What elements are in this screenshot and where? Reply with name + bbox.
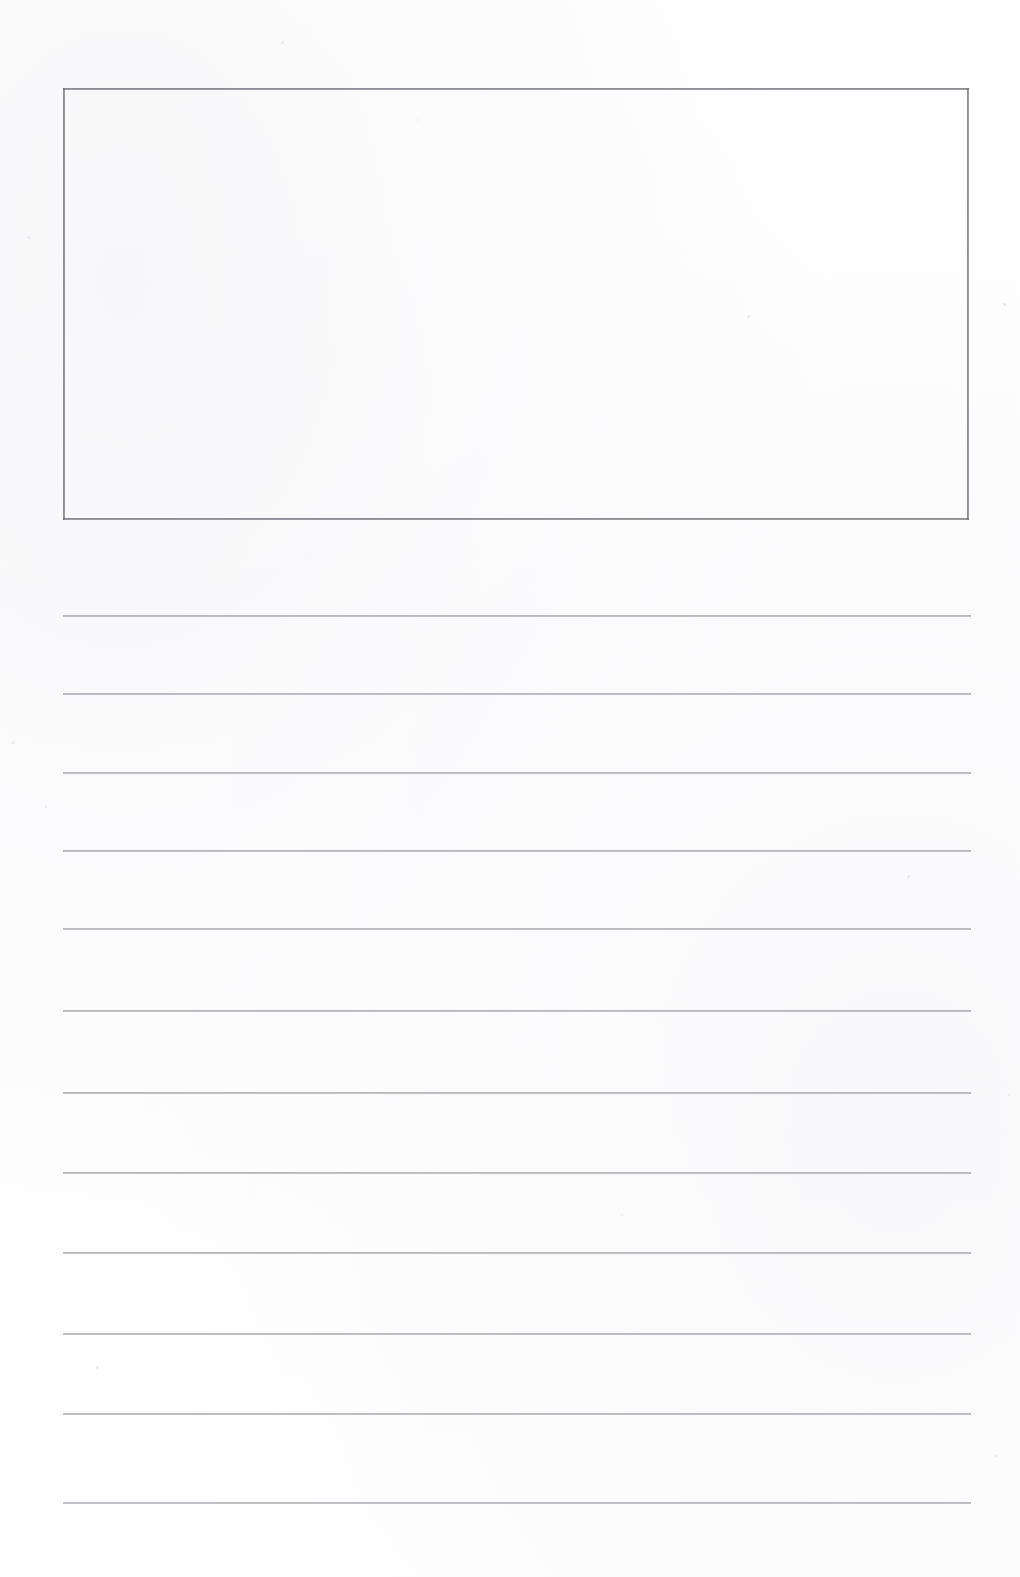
writing-line[interactable] — [63, 850, 971, 852]
writing-line[interactable] — [63, 772, 971, 774]
writing-line[interactable] — [63, 693, 971, 695]
writing-line[interactable] — [63, 1413, 971, 1415]
writing-line[interactable] — [63, 928, 971, 930]
writing-line[interactable] — [63, 1010, 971, 1012]
writing-line[interactable] — [63, 615, 971, 617]
drawing-box-right-border — [967, 88, 969, 520]
drawing-box-top-border — [63, 88, 969, 90]
scan-speck — [1003, 303, 1006, 306]
scan-speck — [621, 1214, 623, 1216]
scan-speck — [907, 875, 910, 878]
scan-speck — [995, 1455, 997, 1457]
scan-speck — [1008, 1094, 1010, 1096]
scan-speck — [96, 1366, 99, 1369]
writing-line[interactable] — [63, 1502, 971, 1504]
writing-line[interactable] — [63, 1092, 971, 1094]
writing-line[interactable] — [63, 1252, 971, 1254]
writing-line[interactable] — [63, 1172, 971, 1174]
scanned-page — [0, 0, 1020, 1577]
scan-speck — [45, 806, 47, 808]
scan-speck — [27, 236, 30, 239]
writing-line[interactable] — [63, 1333, 971, 1335]
scan-speck — [281, 41, 284, 44]
drawing-box-bottom-border — [63, 518, 969, 520]
drawing-box-left-border — [63, 88, 65, 520]
scan-speck — [11, 741, 14, 744]
drawing-box[interactable] — [63, 88, 969, 520]
